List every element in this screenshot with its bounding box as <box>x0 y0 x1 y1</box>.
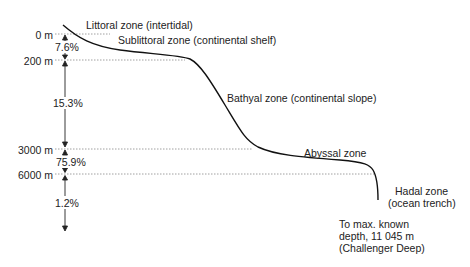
max-depth-note-line1: To max. known <box>339 218 409 230</box>
depth-label-200m: 200 m <box>1 55 53 67</box>
zone-label-hadal: Hadal zone <box>395 185 448 197</box>
percentage-hadal: 1.2% <box>55 197 79 209</box>
percentage-bathyal: 15.3% <box>53 97 83 109</box>
depth-label-3000m: 3000 m <box>1 144 53 156</box>
max-depth-note-line2: depth, 11 045 m <box>339 230 414 242</box>
zone-label-hadal-sub: (ocean trench) <box>388 197 456 209</box>
max-depth-note-line3: (Challenger Deep) <box>339 242 425 254</box>
zone-label-abyssal: Abyssal zone <box>304 147 366 159</box>
zone-label-littoral: Littoral zone (intertidal) <box>86 19 193 31</box>
zone-label-sublittoral: Sublittoral zone (continental shelf) <box>118 34 276 46</box>
depth-label-0m: 0 m <box>1 29 53 41</box>
zone-label-bathyal: Bathyal zone (continental slope) <box>227 92 376 104</box>
depth-label-6000m: 6000 m <box>1 169 53 181</box>
percentage-littoral-sublittoral: 7.6% <box>55 41 79 53</box>
percentage-abyssal: 75.9% <box>56 156 86 168</box>
